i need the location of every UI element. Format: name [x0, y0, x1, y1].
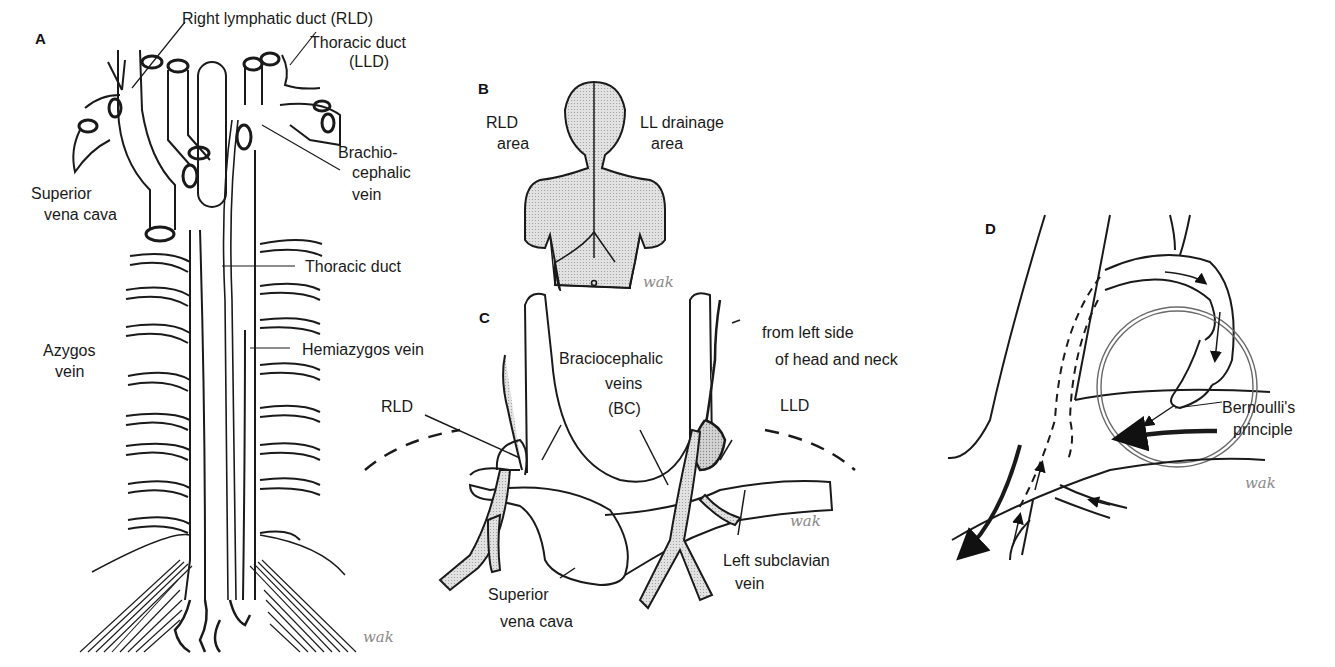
- label-rld-area-1: RLD: [486, 113, 518, 132]
- label-thoracic-duct-top: Thoracic duct: [310, 33, 406, 52]
- label-superior-vena-cava-a-1: Superior: [31, 184, 91, 203]
- panel-b-letter: B: [478, 80, 489, 97]
- label-ll-drainage-2: area: [651, 134, 683, 153]
- label-left-subclavian-2: vein: [735, 574, 764, 593]
- label-azygos-1: Azygos: [43, 341, 95, 360]
- label-left-subclavian-1: Left subclavian: [723, 551, 830, 570]
- signature-c: wak: [790, 512, 821, 530]
- label-braciocephalic-veins-3: (BC): [608, 399, 641, 418]
- panel-a-drawing: [73, 22, 356, 652]
- label-right-lymphatic-duct: Right lymphatic duct (RLD): [182, 9, 373, 28]
- label-braciocephalic-veins-1: Braciocephalic: [559, 349, 663, 368]
- panel-c-letter: C: [479, 309, 490, 326]
- signature-b: wak: [643, 273, 674, 291]
- label-bernoullis-2: principle: [1233, 420, 1293, 439]
- label-ll-drainage-1: LL drainage: [640, 113, 724, 132]
- label-from-left-side-2: of head and neck: [775, 350, 898, 369]
- label-rld-area-2: area: [497, 134, 529, 153]
- label-braciocephalic-veins-2: veins: [605, 374, 642, 393]
- label-superior-vena-cava-a-2: vena cava: [44, 205, 117, 224]
- label-superior-vena-cava-c-2: vena cava: [500, 612, 573, 631]
- panel-d-letter: D: [985, 220, 996, 237]
- panel-d-drawing: [948, 215, 1270, 560]
- label-superior-vena-cava-c-1: Superior: [488, 585, 548, 604]
- panel-a-letter: A: [35, 30, 46, 47]
- label-brachiocephalic-1: Brachio-: [338, 143, 398, 162]
- label-thoracic-duct-lld: (LLD): [349, 52, 389, 71]
- label-bernoullis-1: Bernoulli's: [1222, 398, 1295, 417]
- label-brachiocephalic-2: cephalic: [352, 163, 411, 182]
- label-azygos-2: vein: [55, 362, 84, 381]
- label-brachiocephalic-3: vein: [352, 185, 381, 204]
- label-rld-c: RLD: [381, 397, 413, 416]
- anatomy-illustration: [0, 0, 1335, 667]
- label-lld-c: LLD: [780, 396, 809, 415]
- label-from-left-side-1: from left side: [762, 323, 854, 342]
- signature-d: wak: [1245, 474, 1276, 492]
- label-thoracic-duct: Thoracic duct: [305, 257, 401, 276]
- label-hemiazygos-vein: Hemiazygos vein: [302, 340, 424, 359]
- signature-a: wak: [363, 628, 394, 646]
